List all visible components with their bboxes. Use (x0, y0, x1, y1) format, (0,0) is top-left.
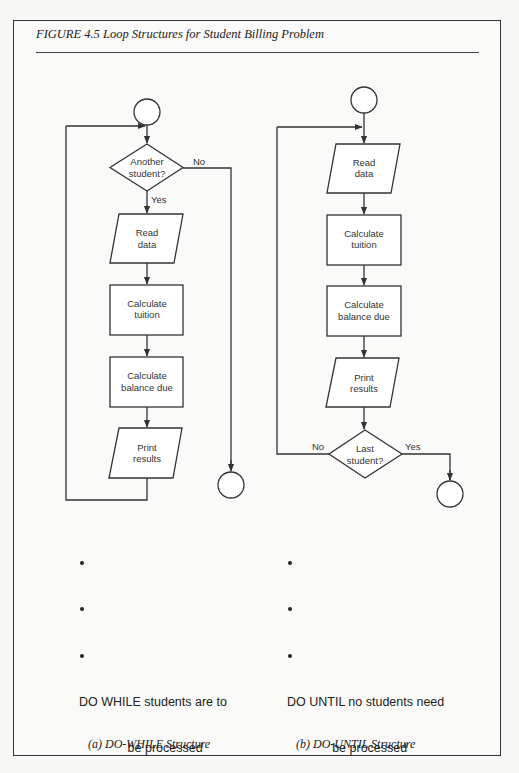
do-until-tuition-label-2: tuition (351, 239, 376, 250)
do-until-decision-label-1: Last (356, 443, 374, 454)
do-while-print-label-2: results (133, 453, 161, 464)
do-while-balance-label-1: Calculate (127, 370, 167, 381)
do-until-yes-branch (402, 454, 450, 480)
do-until-decision-diamond (329, 430, 402, 478)
do-until-no-label: No (312, 441, 324, 452)
do-until-balance-label-2: balance due (338, 311, 390, 322)
do-while-balance-label-2: balance due (121, 382, 173, 393)
do-while-tuition-label-1: Calculate (127, 298, 167, 309)
ellipsis-dot (287, 648, 444, 664)
pseudocode-line: DO WHILE students are to (79, 695, 227, 711)
do-until-tuition-label-1: Calculate (344, 228, 384, 239)
do-while-end-connector (218, 472, 244, 498)
do-until-end-connector (437, 481, 463, 507)
do-until-read-label-2: data (355, 168, 374, 179)
do-while-read-label-2: data (138, 239, 157, 250)
do-while-read-label-1: Read (136, 227, 159, 238)
do-while-pseudocode: DO WHILE students are to be processed RE… (79, 524, 227, 773)
do-while-decision-label-2: student? (129, 168, 165, 179)
do-while-yes-label: Yes (151, 194, 167, 205)
do-while-start-connector (134, 99, 160, 125)
do-while-caption: (a) DO-WHILE Structure (88, 737, 210, 752)
do-until-no-branch-loop-back (277, 127, 329, 454)
do-until-print-label-2: results (350, 383, 378, 394)
do-until-yes-label: Yes (405, 441, 421, 452)
do-while-tuition-label-2: tuition (134, 309, 159, 320)
do-until-pseudocode: DO UNTIL no students need be processed R… (287, 524, 444, 773)
do-until-start-connector (351, 87, 377, 113)
do-while-decision-label-1: Another (130, 156, 163, 167)
ellipsis-dot (79, 648, 227, 664)
ellipsis-dot (287, 555, 444, 571)
do-until-read-label-1: Read (353, 157, 376, 168)
do-while-print-label-1: Print (137, 442, 157, 453)
do-until-print-label-1: Print (354, 372, 374, 383)
ellipsis-dot (79, 555, 227, 571)
do-until-balance-label-1: Calculate (344, 299, 384, 310)
pseudocode-line: DO UNTIL no students need (287, 695, 444, 711)
do-while-no-label: No (193, 156, 205, 167)
do-while-no-branch (183, 168, 231, 470)
ellipsis-dot (79, 602, 227, 618)
ellipsis-dot (287, 602, 444, 618)
do-until-caption: (b) DO-UNTIL Structure (296, 737, 415, 752)
do-until-decision-label-2: student? (347, 455, 383, 466)
